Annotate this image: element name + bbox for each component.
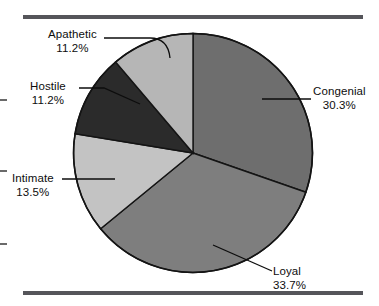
- slice-label-hostile-name: Hostile: [30, 80, 66, 92]
- slice-label-hostile: Hostile 11.2%: [30, 80, 66, 107]
- slice-label-loyal-value: 33.7%: [273, 279, 306, 293]
- slice-label-intimate-name: Intimate: [12, 172, 54, 184]
- slice-label-apathetic-name: Apathetic: [48, 28, 97, 40]
- slice-label-congenial-name: Congenial: [313, 85, 366, 97]
- slice-label-intimate-value: 13.5%: [12, 186, 54, 200]
- slice-label-congenial-value: 30.3%: [313, 99, 366, 113]
- slice-label-loyal: Loyal 33.7%: [273, 265, 306, 292]
- slice-label-intimate: Intimate 13.5%: [12, 172, 54, 199]
- slice-label-apathetic: Apathetic 11.2%: [48, 28, 97, 55]
- slice-label-congenial: Congenial 30.3%: [313, 85, 366, 112]
- slice-label-loyal-name: Loyal: [273, 265, 301, 277]
- slice-label-hostile-value: 11.2%: [30, 94, 66, 108]
- pie-slices: [73, 34, 312, 273]
- pie-chart-figure: Apathetic 11.2% Hostile 11.2% Intimate 1…: [0, 0, 379, 306]
- slice-label-apathetic-value: 11.2%: [48, 42, 97, 56]
